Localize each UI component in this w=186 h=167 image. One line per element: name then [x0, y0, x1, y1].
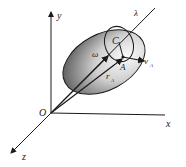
point-a-label: A	[119, 62, 126, 72]
v-subscript: A	[149, 63, 154, 68]
rigid-body-ellipse	[52, 17, 156, 108]
y-label: y	[56, 10, 62, 21]
omega-label: ω	[92, 49, 98, 59]
r-label: r	[106, 71, 110, 81]
diagram-canvas: y x z O λ C ω A r A v A	[0, 0, 186, 167]
point-a	[121, 55, 124, 58]
x-axis	[51, 113, 165, 115]
rigid-body-rotation-diagram: y x z O λ C ω A r A v A	[0, 0, 186, 167]
center-label: C	[112, 35, 119, 46]
v-label: v	[144, 56, 148, 66]
z-label: z	[21, 151, 26, 162]
origin-label: O	[39, 107, 46, 118]
x-label: x	[165, 118, 171, 129]
z-axis	[11, 113, 51, 153]
lambda-label: λ	[133, 8, 138, 18]
